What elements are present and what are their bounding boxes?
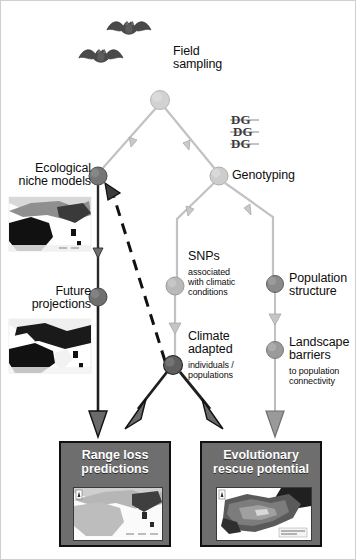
outcome-title-evolutionary-rescue: Evolutionary rescue potential	[202, 449, 320, 477]
edge-genotyping-to-popstructure	[225, 183, 273, 276]
edge-sampling-to-genotyping	[165, 108, 215, 169]
landscape-barriers-label: Landscape barriers	[289, 336, 349, 363]
edge-climate-adapted-to-range-loss	[125, 372, 167, 429]
node-future-projections[interactable]	[89, 288, 107, 306]
range-loss-map	[73, 487, 163, 541]
ecological-niche-models-label: Ecological niche models	[5, 162, 91, 189]
node-genotyping[interactable]	[210, 167, 228, 185]
node-ecological-niche-models[interactable]	[89, 167, 107, 185]
evolutionary-rescue-map	[216, 487, 312, 541]
bat-icon	[79, 49, 123, 63]
node-field-sampling[interactable]	[151, 91, 170, 110]
climate-adapted-label: Climate adapted	[188, 330, 233, 357]
landscape-barriers-sublabel: to population connectivity	[289, 366, 339, 386]
snps-sublabel: associated with climatic conditions	[188, 267, 235, 297]
field-sampling-label: Field sampling	[173, 45, 222, 72]
edge-popstructure-to-landscape	[269, 292, 281, 342]
snps-label: SNPs	[188, 250, 220, 263]
population-structure-label: Population structure	[289, 272, 347, 299]
edge-sampling-to-niche	[102, 108, 156, 169]
node-climate-adapted[interactable]	[164, 356, 183, 375]
edge-landscape-to-rescue	[266, 358, 284, 437]
node-landscape-barriers[interactable]	[267, 342, 284, 359]
edge-niche-to-future	[93, 185, 103, 289]
outcome-title-range-loss: Range loss predictions	[61, 449, 169, 477]
edge-climate-adapted-feedback	[105, 183, 165, 361]
niche-model-map	[9, 197, 91, 251]
bat-icon	[107, 21, 151, 35]
edge-snps-to-climate-adapted	[169, 295, 181, 357]
future-projection-map	[9, 319, 91, 373]
node-population-structure[interactable]	[267, 276, 284, 293]
edge-future-to-range-loss	[89, 306, 107, 437]
climate-adapted-sublabel: individuals / populations	[188, 360, 234, 380]
node-snps-climatic[interactable]	[166, 277, 184, 295]
outcome-box-evolutionary-rescue[interactable]: Evolutionary rescue potential	[200, 441, 322, 547]
future-projections-label: Future projections	[5, 285, 91, 312]
edge-climate-adapted-to-rescue	[180, 372, 223, 429]
genotyping-label: Genotyping	[232, 169, 295, 182]
outcome-box-range-loss[interactable]: Range loss predictions	[59, 441, 171, 547]
dna-sequence-icon: DG DG DG	[230, 112, 259, 151]
workflow-figure: DG DG DG	[0, 0, 356, 560]
